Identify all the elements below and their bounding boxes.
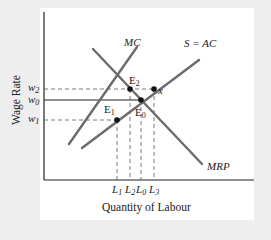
x-tick-l3: L3 bbox=[149, 184, 159, 195]
e2-label: E2 bbox=[129, 75, 140, 86]
supply-ac-label: S = AC bbox=[184, 38, 216, 49]
x-tick-l1: L1 bbox=[112, 184, 122, 195]
x-tick-l0: L0 bbox=[136, 184, 146, 195]
point-e1 bbox=[114, 117, 120, 123]
x-tick-l2: L2 bbox=[125, 184, 135, 195]
point-e2 bbox=[127, 86, 133, 92]
point-e0 bbox=[138, 97, 144, 103]
y-tick-w0: w0 bbox=[28, 94, 39, 105]
supply-ac-curve bbox=[82, 60, 199, 148]
mrp-label: MRP bbox=[207, 161, 230, 172]
y-tick-w2: w2 bbox=[28, 82, 39, 93]
x-axis-title: Quantity of Labour bbox=[102, 202, 191, 214]
e0-label: E0 bbox=[135, 107, 146, 118]
x-label: x bbox=[158, 85, 163, 96]
mc-label: MC bbox=[124, 37, 141, 48]
e1-label: E1 bbox=[104, 104, 115, 115]
y-tick-w1: w1 bbox=[28, 113, 39, 124]
point-x bbox=[151, 86, 157, 92]
y-axis-title: Wage Rate bbox=[10, 75, 22, 125]
mc-curve bbox=[69, 47, 137, 144]
